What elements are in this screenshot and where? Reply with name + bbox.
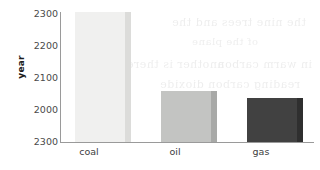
- y-tick-label: 2100: [12, 73, 58, 83]
- bar-coal-fill: [75, 12, 131, 142]
- x-tick-label-gas: gas: [233, 146, 289, 157]
- plot-area: [61, 12, 314, 142]
- y-tick-label: 2200: [12, 41, 58, 51]
- bar-gas-edge: [297, 98, 303, 142]
- x-tick-label-coal: coal: [61, 146, 117, 157]
- x-tick-label-oil: oil: [147, 146, 203, 157]
- bar-gas: [247, 98, 303, 142]
- bar-oil: [161, 91, 217, 142]
- y-tick-label: 2000: [12, 105, 58, 115]
- y-tick-label: 2300: [12, 137, 58, 147]
- bar-coal-edge: [125, 12, 131, 142]
- bar-gas-fill: [247, 98, 303, 142]
- bar-oil-edge: [211, 91, 217, 142]
- y-tick-label: 2300: [12, 9, 58, 19]
- bar-coal: [75, 12, 131, 142]
- x-axis-line: [60, 142, 314, 143]
- bar-chart: year 2300 2200 2100 2000 2300 coal oil g…: [0, 0, 320, 170]
- y-axis-ticks: 2300 2200 2100 2000 2300: [0, 0, 58, 170]
- bar-oil-fill: [161, 91, 217, 142]
